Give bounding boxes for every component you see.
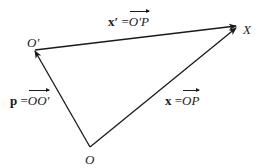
point-label-x: X — [243, 23, 251, 36]
label-x-equation: x =OP — [165, 94, 199, 107]
equals-sign: = — [118, 14, 129, 29]
equals-sign: = — [17, 93, 28, 108]
label-x-prime-equation: x′ =O′P — [108, 15, 149, 28]
vector-o-prime-p: O′P — [129, 15, 149, 28]
label-p-equation: p =OO′ — [10, 94, 49, 107]
symbol-x-prime: x′ — [108, 14, 118, 29]
point-label-o-prime: O′ — [27, 36, 39, 49]
equals-sign: = — [172, 93, 183, 108]
vector-x-prime-arrow — [35, 26, 236, 50]
vector-o-p: OP — [182, 94, 199, 107]
vector-o-o-prime: OO′ — [28, 94, 50, 107]
vector-x-arrow — [90, 28, 236, 147]
point-label-o: O — [85, 153, 94, 166]
